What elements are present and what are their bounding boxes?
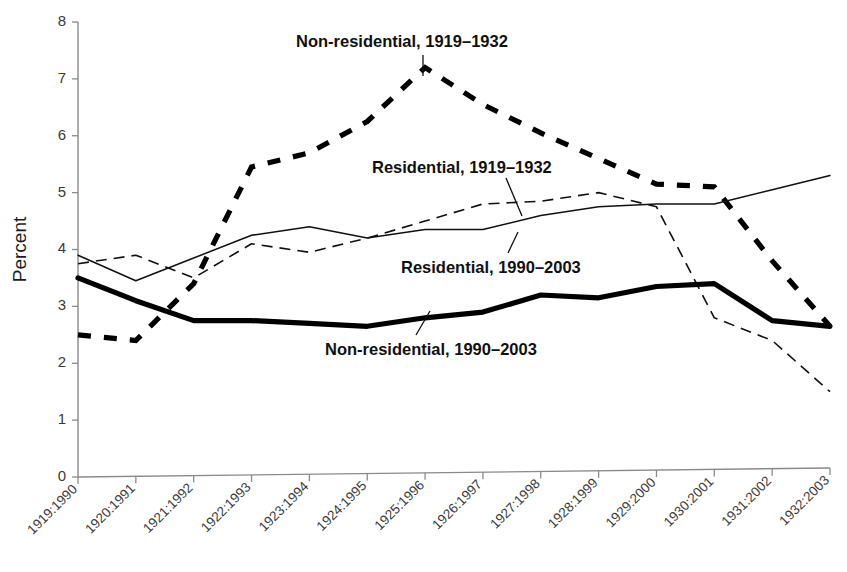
series-line-1: [78, 193, 830, 392]
annotation-label: Residential, 1990–2003: [401, 258, 581, 276]
annotation-label: Non-residential, 1990–2003: [325, 340, 537, 358]
y-tick-label: 4: [58, 239, 66, 256]
y-tick-label: 8: [58, 12, 66, 29]
x-tick-label: 1929:2000: [603, 475, 659, 531]
x-tick-label: 1931:2002: [719, 473, 775, 529]
x-tick-label: 1928:1999: [545, 475, 601, 531]
x-tick-label: 1919:1990: [24, 482, 80, 538]
x-tick-label: 1921:1992: [140, 480, 196, 536]
y-tick-label: 6: [58, 126, 66, 143]
chart-container: 0123456781919:19901920:19911921:19921922…: [0, 0, 847, 572]
x-tick-label: 1922:1993: [198, 479, 254, 535]
x-tick-label: 1930:2001: [661, 474, 717, 530]
y-tick-label: 5: [58, 183, 66, 200]
x-axis-line: [78, 468, 830, 477]
annotation-leader-res-1919: [506, 178, 522, 216]
x-tick-label: 1924:1995: [314, 478, 370, 534]
x-tick-label: 1925:1996: [371, 477, 427, 533]
y-axis-title: Percent: [9, 216, 30, 282]
x-tick-label: 1920:1991: [82, 481, 138, 537]
annotation-label: Non-residential, 1919–1932: [296, 32, 508, 50]
annotation-leader-res-1990: [508, 232, 518, 253]
y-tick-label: 2: [58, 353, 66, 370]
annotation-nonres-1990: Non-residential, 1990–2003: [325, 340, 537, 359]
annotation-res-1990: Residential, 1990–2003: [401, 258, 581, 277]
x-tick-label: 1932:2003: [776, 473, 832, 529]
y-tick-label: 3: [58, 296, 66, 313]
y-tick-label: 0: [58, 467, 66, 484]
y-tick-label: 1: [58, 410, 66, 427]
annotation-label: Residential, 1919–1932: [372, 158, 552, 176]
annotation-res-1919: Residential, 1919–1932: [372, 158, 552, 177]
x-tick-label: 1926:1997: [429, 477, 485, 533]
y-tick-label: 7: [58, 69, 66, 86]
x-tick-label: 1923:1994: [256, 478, 312, 534]
x-tick-label: 1927:1998: [487, 476, 543, 532]
annotation-nonres-1919: Non-residential, 1919–1932: [296, 32, 508, 51]
chart-plot-svg: 0123456781919:19901920:19911921:19921922…: [0, 0, 847, 572]
annotation-leader-nonres-1990: [416, 311, 430, 335]
